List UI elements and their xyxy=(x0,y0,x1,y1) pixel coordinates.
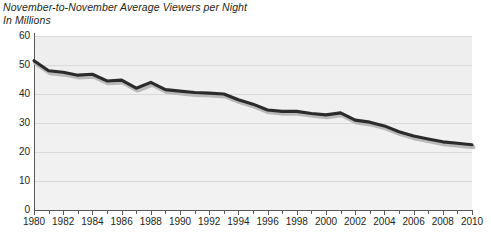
y-axis-tick-label: 10 xyxy=(4,175,30,186)
x-axis-tick xyxy=(355,210,356,215)
x-axis-tick xyxy=(253,210,254,214)
x-axis-tick-label: 2008 xyxy=(432,216,454,227)
x-axis-tick-label: 1994 xyxy=(227,216,249,227)
x-axis-tick xyxy=(472,210,473,215)
x-axis-tick xyxy=(282,210,283,214)
x-axis-tick xyxy=(49,210,50,214)
x-axis-tick xyxy=(224,210,225,214)
x-axis-tick xyxy=(370,210,371,214)
gridline xyxy=(34,123,472,124)
x-axis-tick xyxy=(326,210,327,215)
x-axis-tick xyxy=(238,210,239,215)
y-axis-tick-label: 40 xyxy=(4,88,30,99)
x-axis-tick xyxy=(443,210,444,215)
x-axis-tick xyxy=(165,210,166,214)
x-axis-tick-label: 1980 xyxy=(23,216,45,227)
y-axis-line xyxy=(34,33,35,213)
x-axis-tick-label: 1986 xyxy=(110,216,132,227)
gridline xyxy=(34,36,472,37)
x-axis-tick xyxy=(341,210,342,214)
x-axis-tick-label: 1990 xyxy=(169,216,191,227)
y-axis-tick-labels: 0102030405060 xyxy=(0,0,30,243)
y-axis-tick-label: 50 xyxy=(4,59,30,70)
y-axis-tick-label: 0 xyxy=(4,204,30,215)
x-axis-tick xyxy=(268,210,269,215)
x-axis-tick xyxy=(399,210,400,214)
x-axis-tick-label: 2004 xyxy=(373,216,395,227)
x-axis-tick xyxy=(78,210,79,214)
x-axis-tick xyxy=(384,210,385,215)
x-axis-tick xyxy=(63,210,64,215)
plot-wrap: 0102030405060 19801982198419861988199019… xyxy=(0,0,491,243)
plot-area xyxy=(34,36,472,210)
x-axis-tick xyxy=(92,210,93,215)
x-axis-tick xyxy=(122,210,123,215)
y-axis-tick-label: 60 xyxy=(4,30,30,41)
x-axis-tick xyxy=(136,210,137,214)
x-axis-tick xyxy=(457,210,458,214)
x-axis-tick xyxy=(180,210,181,215)
x-axis-tick xyxy=(428,210,429,214)
x-axis-tick-label: 1988 xyxy=(140,216,162,227)
x-axis-tick-label: 2000 xyxy=(315,216,337,227)
x-axis-tick xyxy=(34,210,35,215)
x-axis-tick-label: 2010 xyxy=(461,216,483,227)
x-axis-tick xyxy=(311,210,312,214)
x-axis-tick xyxy=(209,210,210,215)
x-axis-tick xyxy=(297,210,298,215)
gridline xyxy=(34,181,472,182)
x-axis-tick xyxy=(414,210,415,215)
x-axis-tick xyxy=(151,210,152,215)
x-axis-tick xyxy=(195,210,196,214)
y-axis-tick-label: 20 xyxy=(4,146,30,157)
x-axis-tick-label: 1984 xyxy=(81,216,103,227)
x-axis-tick-label: 1992 xyxy=(198,216,220,227)
gridline xyxy=(34,94,472,95)
x-axis-tick-label: 2006 xyxy=(402,216,424,227)
x-axis-tick-label: 1996 xyxy=(256,216,278,227)
gridline xyxy=(34,152,472,153)
gridline xyxy=(34,65,472,66)
chart-root: November-to-November Average Viewers per… xyxy=(0,0,491,243)
x-axis-tick-label: 2002 xyxy=(344,216,366,227)
x-axis-tick xyxy=(107,210,108,214)
y-axis-tick-label: 30 xyxy=(4,117,30,128)
x-axis-tick-label: 1982 xyxy=(52,216,74,227)
x-axis-tick-label: 1998 xyxy=(286,216,308,227)
